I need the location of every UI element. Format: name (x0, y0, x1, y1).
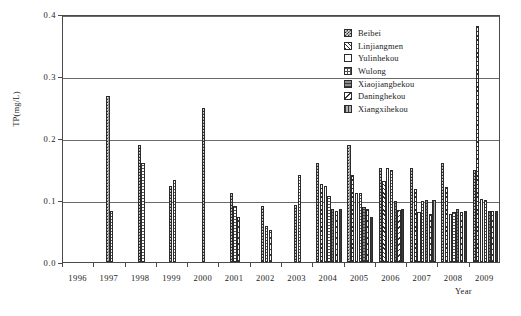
bar (491, 211, 494, 262)
bar (484, 200, 487, 262)
x-tick-mark (62, 263, 63, 267)
bar (230, 193, 233, 262)
bar (355, 193, 358, 262)
x-tick-label: 1997 (100, 273, 119, 283)
bar (456, 209, 459, 262)
y-tick-label: 0.3 (44, 72, 56, 82)
bar (488, 211, 491, 262)
chart-legend: BeibeiLinjiangmenYulinhekouWulongXiaojia… (344, 27, 414, 115)
legend-item[interactable]: Beibei (344, 27, 414, 40)
bar (138, 145, 141, 262)
x-tick-label: 2005 (350, 273, 369, 283)
bar (414, 189, 417, 262)
bar (460, 212, 463, 262)
bar (432, 200, 435, 262)
legend-item[interactable]: Xiangxihekou (344, 103, 414, 116)
bar (269, 230, 272, 262)
bar (495, 211, 498, 262)
bar (410, 168, 413, 262)
x-tick-mark (218, 263, 219, 267)
legend-item-label: Wulong (358, 66, 386, 76)
bar (320, 184, 323, 262)
x-tick-mark (375, 263, 376, 267)
legend-item[interactable]: Yulinhekou (344, 52, 414, 65)
x-tick-label: 2006 (381, 273, 400, 283)
legend-swatch-icon (344, 80, 352, 88)
bar (397, 210, 400, 262)
legend-item-label: Daninghekou (358, 91, 405, 101)
legend-item[interactable]: Wulong (344, 65, 414, 78)
bar (401, 209, 404, 262)
y-tick-label: 0.4 (44, 10, 56, 20)
bar (261, 206, 264, 262)
legend-item-label: Yulinhekou (358, 53, 399, 63)
bar (110, 211, 113, 262)
bar (362, 207, 365, 262)
bar (335, 211, 338, 262)
x-tick-label: 2004 (319, 273, 338, 283)
bar (347, 145, 350, 262)
x-tick-label: 2003 (287, 273, 306, 283)
x-tick-label: 1999 (162, 273, 181, 283)
bar (379, 168, 382, 262)
x-tick-mark (187, 263, 188, 267)
x-tick-mark (125, 263, 126, 267)
legend-swatch-icon (344, 67, 352, 75)
bar (441, 163, 444, 262)
x-tick-mark (437, 263, 438, 267)
bar (370, 217, 373, 262)
legend-item[interactable]: Daninghekou (344, 90, 414, 103)
legend-item[interactable]: Linjiangmen (344, 40, 414, 53)
legend-item-label: Xiaojiangbekou (358, 79, 414, 89)
bar (298, 175, 301, 262)
y-tick-mark (58, 15, 62, 16)
x-tick-mark (406, 263, 407, 267)
bar (390, 170, 393, 262)
x-tick-label: 2007 (412, 273, 431, 283)
legend-swatch-icon (344, 42, 352, 50)
y-tick-label: 0.2 (44, 134, 56, 144)
x-tick-label: 1996 (68, 273, 87, 283)
legend-item-label: Beibei (358, 28, 381, 38)
bar (359, 193, 362, 262)
x-tick-label: 1998 (131, 273, 150, 283)
x-tick-mark (93, 263, 94, 267)
legend-item-label: Linjiangmen (358, 41, 403, 51)
x-axis-label: Year (455, 286, 472, 296)
bar (386, 168, 389, 262)
x-axis-ticks: 1996199719981999200020012002200320042005… (62, 268, 500, 284)
bar (351, 175, 354, 262)
bar (473, 170, 476, 262)
x-tick-label: 2000 (193, 273, 212, 283)
bar (233, 206, 236, 262)
bar (464, 211, 467, 262)
bar (106, 96, 109, 262)
legend-item[interactable]: Xiaojiangbekou (344, 77, 414, 90)
x-tick-mark (156, 263, 157, 267)
legend-swatch-icon (344, 29, 352, 37)
bar-series-container (63, 16, 499, 262)
x-tick-label: 2002 (256, 273, 275, 283)
bar (202, 108, 205, 262)
bar (449, 214, 452, 262)
legend-swatch-icon (344, 92, 352, 100)
plot-area (62, 15, 500, 263)
x-tick-mark (344, 263, 345, 267)
bar (476, 26, 479, 262)
x-tick-label: 2009 (475, 273, 494, 283)
bar (265, 226, 268, 262)
bar (237, 217, 240, 262)
y-axis-ticks: 0.00.10.20.30.4 (0, 0, 56, 316)
x-tick-label: 2008 (444, 273, 463, 283)
legend-item-label: Xiangxihekou (358, 104, 408, 114)
bar (316, 163, 319, 262)
bar (429, 214, 432, 262)
bar (425, 200, 428, 262)
bar (382, 181, 385, 262)
bar (173, 180, 176, 262)
bar (445, 187, 448, 262)
x-tick-mark (250, 263, 251, 267)
bar (294, 205, 297, 262)
bar (394, 201, 397, 262)
y-tick-mark (58, 201, 62, 202)
